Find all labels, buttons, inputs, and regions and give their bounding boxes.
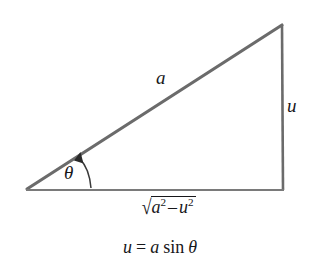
radicand-second-exponent: 2	[188, 196, 194, 208]
radicand: a2–u2	[151, 196, 196, 216]
equation-caption: u=asinθ	[110, 238, 210, 256]
equation-equals-sign: =	[136, 237, 146, 257]
equation-function-name: sin	[163, 237, 184, 257]
triangle-drawing	[0, 0, 320, 265]
angle-arc	[80, 159, 92, 189]
equation-argument-theta: θ	[188, 237, 197, 257]
equation-lhs: u	[123, 237, 132, 257]
radicand-first-base: a	[152, 197, 161, 217]
hypotenuse-label: a	[156, 68, 166, 87]
radicand-second-base: u	[179, 197, 188, 217]
angle-label-theta: θ	[64, 163, 73, 182]
radical-sign-icon: √	[142, 197, 152, 218]
base-label-radical: √a2–u2	[139, 196, 196, 218]
trigonometry-figure: a u θ √a2–u2 u=asinθ	[0, 0, 320, 265]
radical-expression: √a2–u2	[139, 196, 196, 218]
vertical-side-label: u	[287, 96, 297, 115]
vertical-side-line	[282, 25, 283, 190]
radicand-operator: –	[166, 197, 179, 217]
equation-coefficient: a	[150, 237, 159, 257]
